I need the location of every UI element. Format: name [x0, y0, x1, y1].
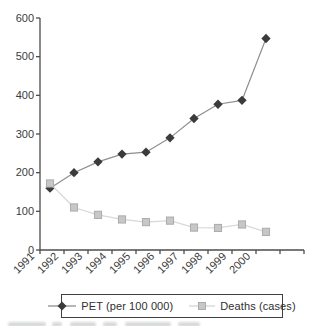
pet-series-marker-icon — [48, 301, 76, 311]
square-data-marker — [262, 228, 269, 235]
diamond-data-marker — [261, 34, 270, 43]
diamond-data-marker — [213, 100, 222, 109]
diamond-data-marker — [93, 157, 102, 166]
x-axis-tick-label: 1993 — [59, 250, 85, 276]
cropped-caption-strip — [0, 320, 310, 326]
cropped-caption-fragment — [103, 322, 117, 326]
cropped-caption-fragment — [178, 322, 200, 326]
square-data-marker — [94, 211, 101, 218]
legend-item-pet: PET (per 100 000) — [48, 300, 173, 312]
square-series-line — [50, 183, 266, 231]
x-axis-tick-label: 1999 — [203, 250, 229, 276]
diamond-data-marker — [237, 96, 246, 105]
diamond-series-line — [50, 38, 266, 188]
x-axis-tick-label: 1996 — [131, 250, 157, 276]
x-axis-tick-label: 2000 — [227, 250, 253, 276]
square-data-marker — [118, 216, 125, 223]
diamond-data-marker — [141, 148, 150, 157]
y-axis-tick-label: 500 — [16, 50, 34, 62]
cropped-caption-fragment — [125, 322, 171, 326]
y-axis-tick-label: 600 — [16, 12, 34, 24]
x-axis-tick-label: 1997 — [155, 250, 181, 276]
statistical-figure: 0100200300400500600199119921993199419951… — [0, 0, 310, 326]
y-axis-tick-label: 100 — [16, 205, 34, 217]
y-axis-tick-label: 200 — [16, 166, 34, 178]
cropped-caption-fragment — [70, 322, 96, 326]
deaths-series-marker-icon — [189, 301, 215, 311]
legend-label-deaths: Deaths (cases) — [220, 300, 295, 312]
square-data-marker — [238, 221, 245, 228]
square-data-marker — [166, 217, 173, 224]
square-data-marker — [214, 224, 221, 231]
x-axis-tick-label: 1998 — [179, 250, 205, 276]
x-axis-tick-label: 1992 — [35, 250, 61, 276]
square-data-marker — [142, 219, 149, 226]
x-axis-tick-label: 1994 — [83, 250, 109, 276]
diamond-data-marker — [117, 149, 126, 158]
x-axis-tick-label: 1995 — [107, 250, 133, 276]
legend-item-deaths: Deaths (cases) — [189, 300, 295, 312]
line-chart-plot: 0100200300400500600199119921993199419951… — [0, 0, 310, 290]
axes — [40, 18, 304, 250]
chart-legend: PET (per 100 000) Deaths (cases) — [61, 294, 283, 318]
diamond-data-marker — [69, 168, 78, 177]
square-data-marker — [190, 224, 197, 231]
y-axis-tick-label: 300 — [16, 128, 34, 140]
square-data-marker — [46, 180, 53, 187]
cropped-caption-fragment — [8, 322, 46, 326]
cropped-caption-fragment — [52, 322, 62, 326]
y-axis-tick-label: 400 — [16, 89, 34, 101]
legend-label-pet: PET (per 100 000) — [81, 300, 173, 312]
square-data-marker — [70, 204, 77, 211]
